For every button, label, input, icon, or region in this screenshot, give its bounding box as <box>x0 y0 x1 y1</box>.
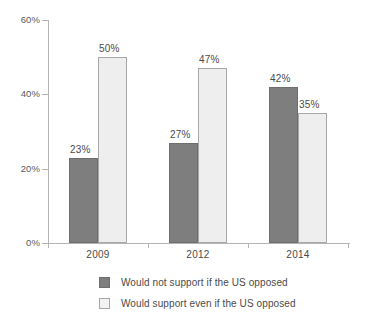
legend-item-series-1: Would not support if the US opposed <box>0 272 365 293</box>
legend-swatch-icon-series-2 <box>99 298 110 309</box>
y-axis-tick-label-text: 20% <box>2 163 40 174</box>
bar-value-label: 42% <box>270 73 291 84</box>
bar <box>269 87 298 243</box>
bar-value-label: 50% <box>99 43 120 54</box>
bar <box>98 57 127 243</box>
bar <box>298 113 327 243</box>
bar <box>198 68 227 243</box>
x-axis-tick <box>48 243 49 248</box>
y-axis-tick-label: 0% <box>0 237 40 249</box>
bar-value-label: 23% <box>70 144 91 155</box>
bar-value-label: 47% <box>199 54 220 65</box>
bar <box>169 143 198 243</box>
legend-label-series-2: Would support even if the US opposed <box>121 298 296 309</box>
x-axis-line <box>48 243 350 244</box>
x-axis-tick <box>248 243 249 248</box>
bar-value-label: 35% <box>299 99 320 110</box>
y-axis-tick-label-text: 40% <box>2 88 40 99</box>
y-axis-tick-label: 20% <box>0 163 40 175</box>
y-axis-tick-label: 40% <box>0 88 40 100</box>
plot-area: 23%50%27%47%42%35% <box>48 20 348 243</box>
y-axis-tick-label: 60% <box>0 14 40 26</box>
y-axis-tick-label-text: 60% <box>2 14 40 25</box>
x-axis-category-label: 2009 <box>48 249 148 260</box>
legend-item-series-2: Would support even if the US opposed <box>0 293 365 314</box>
bar <box>69 158 98 243</box>
x-axis-category-label: 2012 <box>148 249 248 260</box>
y-axis-tick-label-text: 0% <box>2 237 40 248</box>
bar-value-label: 27% <box>170 129 191 140</box>
x-axis-category-label: 2014 <box>248 249 348 260</box>
x-axis-tick <box>148 243 149 248</box>
legend-label-series-1: Would not support if the US opposed <box>121 277 288 288</box>
chart-legend: Would not support if the US opposed Woul… <box>0 272 365 314</box>
bar-chart: 60%40%20%0% 23%50%27%47%42%35% 200920122… <box>0 0 365 322</box>
legend-swatch-icon-series-1 <box>99 277 110 288</box>
x-axis-tick <box>348 243 349 248</box>
